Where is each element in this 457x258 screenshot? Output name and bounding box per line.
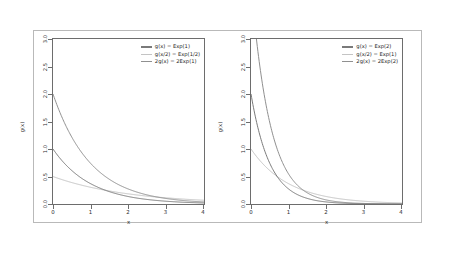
legend-label: g(x) = Exp(1) (155, 44, 190, 49)
panel-left: g(x) 0.00.51.01.52.02.53.0 g(x) = Exp(1)… (20, 34, 216, 219)
x-tick-label: 4 (201, 210, 204, 215)
y-axis-title-left: g(x) (20, 121, 25, 131)
y-tick-label: 2.0 (241, 90, 246, 98)
legend-line-swatch (141, 46, 152, 47)
curve (251, 149, 402, 203)
legend-label: 2g(x) = 2Exp(2) (356, 59, 398, 64)
y-tick-label: 0.0 (241, 200, 246, 208)
x-tick-label: 1 (89, 210, 92, 215)
y-tick-label: 3.0 (43, 35, 48, 43)
y-tick-label: 1.5 (241, 117, 246, 125)
y-tick-label: 2.5 (43, 62, 48, 70)
legend-left: g(x) = Exp(1)g(x/2) = Exp(1/2)2g(x) = 2E… (141, 44, 200, 64)
y-tick-label: 2.0 (43, 90, 48, 98)
x-axis-right: 01234 (250, 205, 403, 213)
legend-line-swatch (141, 61, 152, 62)
x-axis-title-left: x (52, 220, 205, 225)
legend-item: g(x/2) = Exp(1) (342, 51, 396, 57)
x-tick-label: 3 (164, 210, 167, 215)
y-tick-label: 0.0 (43, 200, 48, 208)
legend-item: g(x) = Exp(2) (342, 44, 391, 50)
legend-label: g(x/2) = Exp(1/2) (155, 52, 200, 57)
legend-line-swatch (342, 61, 353, 62)
y-axis-title-right: g(x) (218, 121, 223, 131)
x-tick-label: 0 (249, 210, 252, 215)
curve (53, 149, 204, 203)
legend-item: g(x) = Exp(1) (141, 44, 190, 50)
plot-area-left: g(x) = Exp(1)g(x/2) = Exp(1/2)2g(x) = 2E… (52, 38, 205, 205)
curve (53, 94, 204, 202)
x-tick-label: 1 (287, 210, 290, 215)
y-tick-label: 1.0 (43, 145, 48, 153)
legend-label: 2g(x) = 2Exp(1) (155, 59, 197, 64)
y-tick-label: 0.5 (241, 172, 246, 180)
x-tick-label: 4 (399, 210, 402, 215)
x-axis-title-right: x (250, 220, 403, 225)
x-tick-label: 3 (362, 210, 365, 215)
x-tick-label: 2 (126, 210, 129, 215)
figure-root: g(x) 0.00.51.01.52.02.53.0 g(x) = Exp(1)… (0, 0, 457, 258)
plot-area-right: g(x) = Exp(2)g(x/2) = Exp(1)2g(x) = 2Exp… (250, 38, 403, 205)
x-tick-label: 0 (51, 210, 54, 215)
legend-item: 2g(x) = 2Exp(2) (342, 58, 398, 64)
y-tick-label: 2.5 (241, 62, 246, 70)
legend-label: g(x) = Exp(2) (356, 44, 391, 49)
legend-label: g(x/2) = Exp(1) (356, 52, 396, 57)
y-tick-label: 1.0 (241, 145, 246, 153)
curve (251, 94, 402, 204)
y-tick-label: 1.5 (43, 117, 48, 125)
y-tick-label: 0.5 (43, 172, 48, 180)
legend-item: 2g(x) = 2Exp(1) (141, 58, 197, 64)
legend-item: g(x/2) = Exp(1/2) (141, 51, 200, 57)
legend-line-swatch (141, 54, 152, 55)
panel-right: g(x) 0.00.51.01.52.02.53.0 g(x) = Exp(2)… (218, 34, 414, 219)
x-axis-left: 01234 (52, 205, 205, 213)
y-tick-label: 3.0 (241, 35, 246, 43)
legend-line-swatch (342, 54, 353, 55)
x-tick-label: 2 (324, 210, 327, 215)
legend-right: g(x) = Exp(2)g(x/2) = Exp(1)2g(x) = 2Exp… (342, 44, 398, 64)
legend-line-swatch (342, 46, 353, 47)
